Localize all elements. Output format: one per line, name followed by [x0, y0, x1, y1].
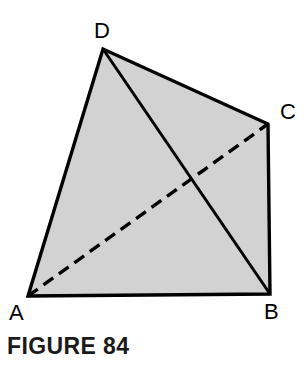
- figure-caption: FIGURE 84: [7, 333, 129, 359]
- vertex-label-b: B: [264, 301, 279, 323]
- figure-container: D C A B FIGURE 84: [0, 0, 307, 372]
- vertex-label-c: C: [280, 101, 296, 123]
- vertex-label-a: A: [9, 302, 24, 324]
- quadrilateral-diagram: [0, 0, 307, 372]
- vertex-label-d: D: [94, 20, 110, 42]
